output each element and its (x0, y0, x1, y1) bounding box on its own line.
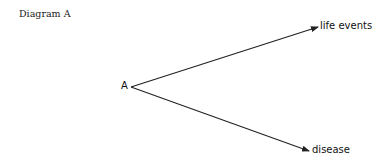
arrow-a-to-disease (131, 87, 309, 151)
node-life-events: life events (320, 20, 372, 31)
node-disease: disease (312, 144, 350, 155)
node-a: A (121, 80, 128, 91)
arrow-a-to-life-events (131, 27, 318, 87)
